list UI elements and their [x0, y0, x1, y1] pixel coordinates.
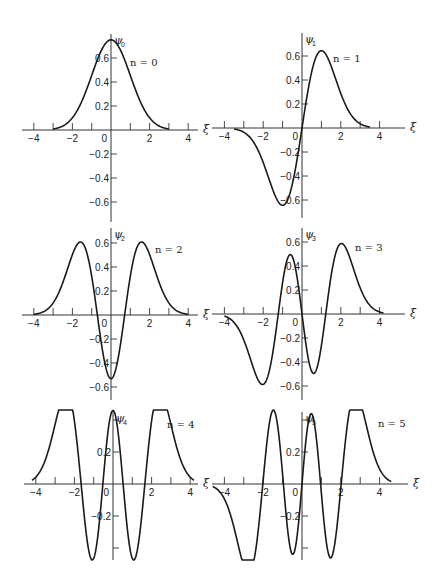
x-axis-label: ξ	[203, 123, 210, 136]
x-tick-label: 0	[292, 317, 298, 328]
panel-n5: −4−2024ξ0.2−0.2ψ5n = 5	[212, 410, 420, 560]
y-tick-label: −0.2	[280, 511, 300, 522]
x-tick-label: −2	[257, 131, 269, 142]
x-tick-label: 2	[338, 131, 344, 142]
x-tick-label: −2	[257, 487, 269, 498]
y-tick-label: −0.2	[89, 149, 109, 160]
x-tick-label: 4	[185, 318, 191, 329]
panel-n2: −4−2024ξ0.60.40.2−0.2−0.4−0.6ψ2n = 2	[22, 228, 210, 400]
x-axis-label: ξ	[203, 477, 210, 490]
y-tick-label: 0.6	[95, 238, 109, 249]
wavefunction-figure: −4−2024ξ0.60.40.2−0.2−0.4−0.6ψ0n = 0−4−2…	[0, 0, 435, 586]
x-tick-label: 0	[101, 318, 107, 329]
x-tick-label: 2	[147, 133, 153, 144]
y-tick-label: 0.6	[286, 237, 300, 248]
y-tick-label: 0.2	[95, 101, 109, 112]
x-tick-label: 2	[149, 487, 155, 498]
x-tick-label: 4	[187, 487, 193, 498]
y-axis-label-subscript: 1	[312, 40, 316, 47]
y-tick-label: −0.6	[89, 382, 109, 393]
y-tick-label: −0.2	[89, 334, 109, 345]
x-tick-label: −4	[28, 318, 40, 329]
x-tick-label: 0	[101, 133, 107, 144]
y-tick-label: 0.2	[286, 447, 300, 458]
y-axis-label-subscript: 0	[121, 41, 125, 48]
y-tick-label: 0.4	[95, 262, 109, 273]
y-axis-label-subscript: 2	[121, 235, 125, 242]
x-axis-label: ξ	[413, 477, 420, 490]
x-tick-label: 0	[292, 131, 298, 142]
x-tick-label: −4	[30, 487, 42, 498]
x-tick-label: −4	[28, 133, 40, 144]
x-tick-label: 2	[147, 318, 153, 329]
panel-n0: −4−2024ξ0.60.40.2−0.2−0.4−0.6ψ0n = 0	[22, 34, 210, 222]
panel-n1: −4−2024ξ0.60.40.2−0.2−0.4−0.6ψ1n = 1	[212, 33, 417, 218]
x-axis-label: ξ	[410, 307, 417, 320]
y-tick-label: −0.2	[91, 511, 111, 522]
x-tick-label: 4	[377, 487, 383, 498]
y-tick-label: 0.2	[286, 99, 300, 110]
y-tick-label: −0.2	[280, 333, 300, 344]
x-tick-label: −2	[257, 317, 269, 328]
y-tick-label: −0.6	[89, 197, 109, 208]
y-tick-label: 0.4	[286, 75, 300, 86]
x-tick-label: −2	[67, 318, 79, 329]
x-tick-label: 4	[185, 133, 191, 144]
n-label: n = 3	[355, 242, 383, 253]
y-tick-label: 0.2	[95, 286, 109, 297]
y-axis-label-subscript: 3	[312, 235, 316, 242]
x-tick-label: 4	[377, 131, 383, 142]
y-tick-label: −0.4	[280, 357, 300, 368]
x-tick-label: 0	[292, 487, 298, 498]
n-label: n = 5	[378, 418, 406, 429]
x-tick-label: −2	[67, 133, 79, 144]
y-tick-label: −0.4	[280, 171, 300, 182]
y-tick-label: 0.6	[286, 51, 300, 62]
y-tick-label: 0.2	[97, 447, 111, 458]
x-tick-label: 0	[103, 487, 109, 498]
panel-n4: −4−2024ξ0.2−0.2ψ4n = 4	[24, 410, 210, 560]
panel-n3: −4−2024ξ0.60.40.2−0.2−0.4−0.6ψ3n = 3	[212, 228, 417, 400]
y-tick-label: −0.6	[280, 195, 300, 206]
x-tick-label: −2	[69, 487, 81, 498]
x-tick-label: 4	[377, 317, 383, 328]
x-axis-label: ξ	[203, 308, 210, 321]
y-axis-label-subscript: 4	[123, 419, 127, 426]
n-label: n = 1	[333, 53, 361, 64]
x-axis-label: ξ	[410, 121, 417, 134]
y-tick-label: −0.4	[89, 173, 109, 184]
y-tick-label: −0.6	[280, 381, 300, 392]
n-label: n = 0	[130, 57, 158, 68]
x-tick-label: 2	[338, 317, 344, 328]
y-tick-label: 0.4	[95, 77, 109, 88]
y-tick-label: 0.4	[286, 261, 300, 272]
n-label: n = 2	[155, 244, 183, 255]
x-tick-label: −4	[219, 131, 231, 142]
